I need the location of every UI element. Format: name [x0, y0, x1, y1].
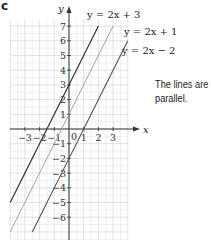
x-tick-label: 2	[95, 132, 101, 143]
y-tick-label: 6	[60, 35, 66, 46]
x-axis-arrow-icon	[133, 127, 140, 132]
y-tick-label: 5	[60, 50, 66, 61]
y-tick-label: 4	[60, 65, 66, 76]
line-graph: −3−2−11237654321−1−2−3−4−5−60xyy = 2x + …	[0, 0, 211, 243]
y-tick-label: 3	[60, 79, 66, 90]
y-axis-label: y	[57, 3, 64, 14]
y-tick-label: 7	[60, 21, 66, 32]
x-tick-label: −3	[18, 132, 32, 143]
y-tick-label: −2	[52, 153, 66, 164]
y-axis-arrow-icon	[67, 6, 72, 13]
origin-label: 0	[71, 131, 77, 142]
y-tick-label: −5	[52, 197, 66, 208]
y-tick-label: 1	[60, 109, 66, 120]
series-label: y = 2x + 3	[86, 9, 141, 20]
x-tick-label: 3	[110, 132, 116, 143]
x-axis-label: x	[143, 124, 149, 135]
note-line-1: The lines are	[155, 77, 211, 91]
series-label: y = 2x + 1	[123, 26, 178, 37]
y-tick-label: −6	[52, 212, 66, 223]
note-line-2: parallel.	[155, 91, 211, 105]
series-label: y = 2x − 2	[121, 45, 176, 56]
note-text: The lines are parallel.	[155, 77, 211, 105]
